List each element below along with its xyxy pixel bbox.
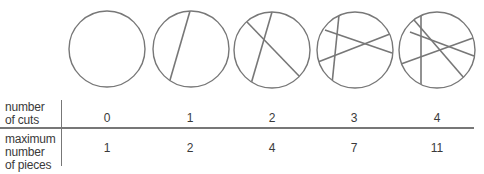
row-label-cuts-line2: of cuts — [5, 114, 45, 126]
row-label-pieces-line3: of pieces — [5, 159, 56, 171]
row-label-pieces-line2: number — [5, 146, 56, 158]
circle-0-cuts — [69, 11, 145, 87]
table-horizontal-divider — [0, 127, 474, 129]
pieces-value-3: 7 — [339, 142, 369, 154]
cuts-value-3: 3 — [339, 112, 369, 124]
cut-line — [332, 15, 339, 84]
row-label-cuts-line1: number — [5, 101, 45, 113]
circle-4-cuts — [399, 12, 475, 88]
table-vertical-divider — [61, 100, 62, 166]
circle-outline — [153, 11, 229, 87]
cuts-value-1: 1 — [175, 112, 205, 124]
circle-3-cuts — [317, 12, 393, 88]
circle-outline — [234, 12, 310, 88]
cuts-value-0: 0 — [92, 112, 122, 124]
circle-2-cuts — [234, 12, 310, 88]
cuts-value-4: 4 — [422, 112, 452, 124]
pieces-value-2: 4 — [257, 142, 287, 154]
cut-line — [251, 12, 272, 84]
circle-outline — [69, 11, 145, 87]
pieces-value-1: 2 — [175, 142, 205, 154]
circle-cuts-diagram — [0, 0, 484, 174]
pieces-value-0: 1 — [92, 142, 122, 154]
row-label-pieces-line1: maximum — [5, 133, 56, 145]
circle-1-cuts — [153, 11, 229, 87]
cuts-value-2: 2 — [257, 112, 287, 124]
pieces-value-4: 11 — [422, 142, 452, 154]
circle-outline — [399, 12, 475, 88]
row-label-pieces: maximum number of pieces — [5, 133, 56, 171]
row-label-cuts: number of cuts — [5, 101, 45, 126]
cut-line — [168, 11, 190, 87]
